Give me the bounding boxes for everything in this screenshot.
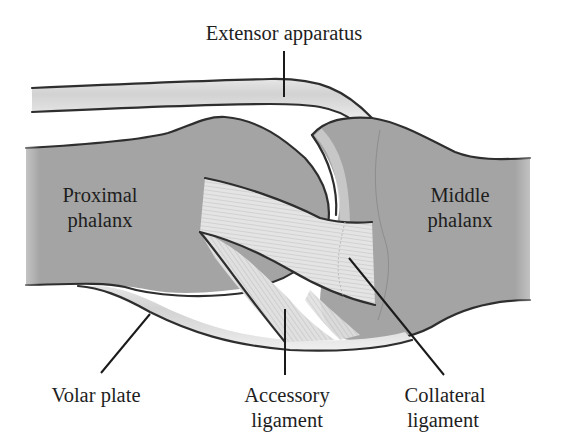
label-collateral-ligament-line2: ligament bbox=[407, 409, 479, 432]
label-extensor-apparatus: Extensor apparatus bbox=[206, 22, 363, 45]
label-middle-phalanx-line2: phalanx bbox=[428, 209, 493, 232]
label-collateral-ligament-line1: Collateral bbox=[405, 384, 486, 406]
leader-volar-plate bbox=[101, 314, 150, 373]
edge-fade-left bbox=[0, 130, 40, 300]
extensor-apparatus bbox=[32, 79, 372, 122]
label-proximal-phalanx-line1: Proximal bbox=[62, 184, 137, 206]
label-middle-phalanx-line1: Middle bbox=[430, 184, 489, 206]
label-accessory-ligament-line2: ligament bbox=[251, 409, 323, 432]
label-accessory-ligament-line1: Accessory bbox=[244, 384, 330, 407]
edge-fade-right bbox=[515, 140, 561, 310]
diagram-canvas: Extensor apparatus Proximal phalanx Midd… bbox=[0, 0, 561, 445]
label-volar-plate: Volar plate bbox=[52, 384, 141, 407]
label-proximal-phalanx-line2: phalanx bbox=[68, 209, 133, 232]
